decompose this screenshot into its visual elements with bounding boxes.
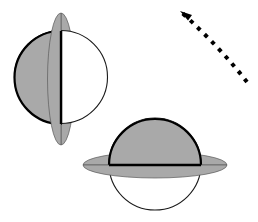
arrow-dashed-curve — [181, 12, 247, 82]
horizontal-ring-front-half — [83, 165, 227, 178]
figure-svg — [0, 0, 258, 222]
arrow-head-icon — [180, 11, 192, 21]
shaded-top-hemisphere — [109, 119, 201, 165]
rotation-direction-arrow — [180, 11, 247, 82]
ringed-sphere-horizontal-ring — [83, 118, 227, 210]
ringed-sphere-vertical-ring — [14, 13, 107, 145]
figure-canvas — [0, 0, 258, 222]
